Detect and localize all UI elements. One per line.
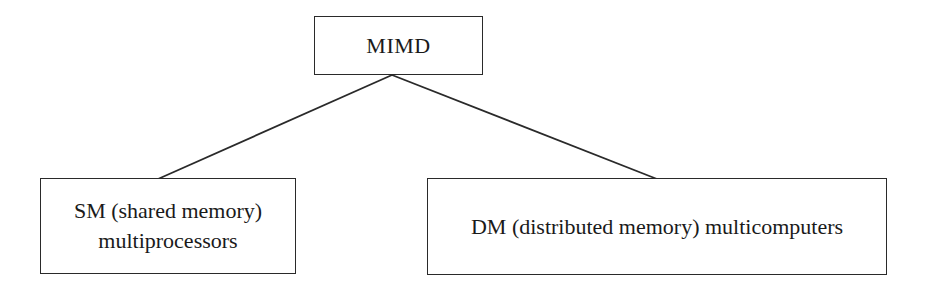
node-mimd-label: MIMD <box>366 33 430 59</box>
node-sm-label-line-1: SM (shared memory) <box>74 196 262 226</box>
edge-mimd-to-sm <box>158 75 392 179</box>
node-distributed-memory-multicomputers: DM (distributed memory) multicomputers <box>427 178 887 275</box>
node-mimd: MIMD <box>314 16 483 75</box>
node-sm-label-line-2: multiprocessors <box>74 226 262 256</box>
node-shared-memory-multiprocessors: SM (shared memory) multiprocessors <box>40 178 296 274</box>
edge-mimd-to-dm <box>392 75 657 179</box>
node-dm-label: DM (distributed memory) multicomputers <box>471 214 843 240</box>
